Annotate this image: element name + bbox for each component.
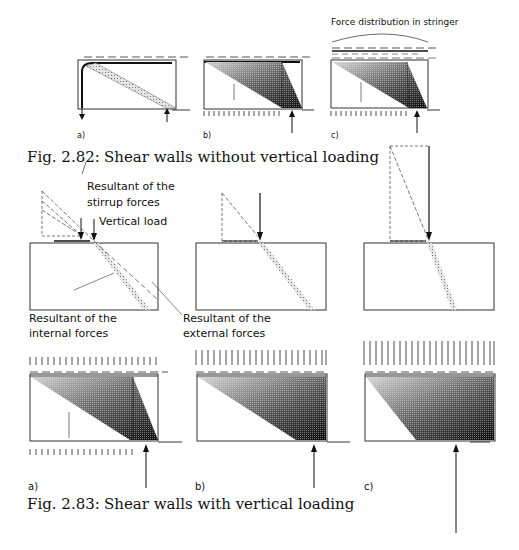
stringer-force-label: Force distribution in stringer bbox=[331, 17, 459, 27]
fig282-panel-a bbox=[78, 57, 190, 122]
resultant-panel-c bbox=[364, 146, 494, 310]
figure-canvas bbox=[0, 0, 519, 550]
fig283-label-a: a) bbox=[28, 481, 38, 492]
internal-resultant-label-line1: Resultant of the bbox=[29, 312, 117, 325]
fig282-panel-b bbox=[204, 57, 314, 133]
fig282-label-b: b) bbox=[203, 131, 211, 140]
external-resultant-label-line1: Resultant of the bbox=[183, 312, 271, 325]
fig283-top-arrows-a bbox=[30, 357, 156, 365]
stirrup-resultant-label-line2: stirrup forces bbox=[87, 196, 160, 209]
fig282-label-c: c) bbox=[331, 131, 339, 140]
external-resultant-label-line2: external forces bbox=[183, 327, 265, 340]
fig282-caption-number: Fig. 2.82: bbox=[27, 148, 100, 166]
fig282-label-a: a) bbox=[77, 131, 85, 140]
fig283-caption-number: Fig. 2.83: bbox=[27, 495, 100, 513]
fig282-caption-text: Shear walls without vertical loading bbox=[104, 148, 379, 166]
fig283-panel-b bbox=[196, 372, 350, 488]
resultant-panel-b bbox=[196, 193, 326, 310]
stirrup-resultant-label-line1: Resultant of the bbox=[87, 180, 175, 193]
fig283-top-arrows-b bbox=[196, 350, 326, 365]
fig283-panel-a bbox=[30, 372, 182, 488]
fig283-label-b: b) bbox=[195, 481, 205, 492]
fig282c-distributed-arrows bbox=[331, 111, 406, 116]
fig282-panel-c bbox=[331, 34, 440, 133]
fig283-top-arrows-c bbox=[364, 341, 494, 365]
fig282b-distributed-arrows bbox=[204, 111, 279, 116]
fig283-caption-text: Shear walls with vertical loading bbox=[104, 495, 354, 513]
fig283-panel-c bbox=[365, 372, 495, 533]
fig283a-bottom-arrows bbox=[30, 449, 132, 455]
internal-resultant-label-line2: internal forces bbox=[29, 327, 108, 340]
vertical-load-label: Vertical load bbox=[99, 215, 167, 228]
fig283-label-c: c) bbox=[364, 481, 373, 492]
